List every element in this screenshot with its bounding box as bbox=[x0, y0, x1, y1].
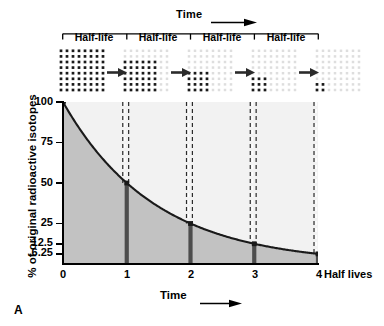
arrow-right-icon bbox=[200, 294, 242, 303]
y-tick-mark-4 bbox=[56, 243, 63, 245]
y-tick-mark-5 bbox=[56, 253, 63, 255]
y-tick-mark-0 bbox=[56, 101, 63, 103]
y-tick-mark-3 bbox=[56, 223, 63, 225]
x-axis-title: Time bbox=[160, 289, 187, 301]
y-axis-title: % of original radioactive isotopes bbox=[26, 91, 38, 281]
x-axis-unit-label: Half lives bbox=[324, 268, 372, 280]
isotope-dot-grid-2 bbox=[186, 48, 236, 94]
decay-curve-plot-area bbox=[63, 102, 318, 264]
x-tick-label-1: 1 bbox=[107, 268, 147, 280]
x-tick-label-0: 0 bbox=[43, 268, 83, 280]
isotope-dot-grid-3 bbox=[250, 48, 300, 94]
arrow-right-icon bbox=[211, 13, 257, 22]
half-life-segment-label-3: Half-life bbox=[190, 31, 254, 43]
panel-letter-label: A bbox=[14, 303, 23, 317]
x-tick-label-2: 2 bbox=[171, 268, 211, 280]
decay-curve-svg bbox=[63, 102, 318, 264]
decay-arrow-icon-3 bbox=[235, 64, 255, 75]
y-tick-mark-1 bbox=[56, 142, 63, 144]
x-tick-label-3: 3 bbox=[235, 268, 275, 280]
decay-arrow-icon-1 bbox=[107, 64, 127, 75]
half-life-segment-label-4: Half-life bbox=[254, 31, 318, 43]
isotope-dot-grid-4 bbox=[314, 48, 364, 94]
isotope-dot-grid-1 bbox=[122, 48, 172, 94]
half-life-segment-label-1: Half-life bbox=[62, 31, 126, 43]
decay-arrow-icon-4 bbox=[299, 64, 319, 75]
decay-arrow-icon-2 bbox=[171, 64, 191, 75]
isotope-dot-grid-0 bbox=[58, 48, 108, 94]
figure-panel-a: Time Half-life Half-life Half-life Half-… bbox=[0, 0, 384, 326]
top-time-axis-label: Time bbox=[176, 8, 202, 20]
x-axis-line bbox=[62, 263, 319, 265]
half-life-segment-label-2: Half-life bbox=[126, 31, 190, 43]
y-tick-mark-2 bbox=[56, 182, 63, 184]
